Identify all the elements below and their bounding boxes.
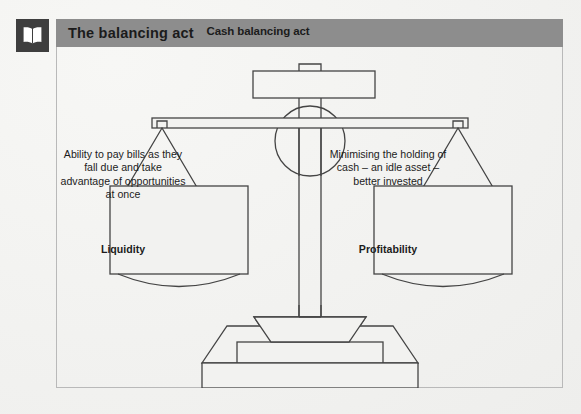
left-pan-caption: Liquidity [62, 243, 184, 256]
left-pan-text: Ability to pay bills as they fall due an… [60, 148, 186, 201]
pedestal-tier-top [254, 317, 366, 342]
cash-balancing-act-label: Cash balancing act [200, 24, 316, 38]
right-pan-text: Minimising the holding of cash – an idle… [323, 148, 453, 188]
balance-scale-diagram [56, 47, 563, 388]
page-title: The balancing act [56, 25, 194, 41]
top-notch [299, 64, 321, 71]
right-pan-caption: Profitability [324, 243, 452, 256]
open-book-icon [16, 19, 49, 52]
pedestal-slab [237, 342, 383, 363]
balance-beam [152, 118, 468, 128]
right-pan-box [374, 186, 512, 274]
right-pan-bowl [382, 274, 504, 287]
left-pan-bowl [118, 274, 240, 287]
pedestal-base-block [202, 363, 418, 388]
cash-label-box [253, 71, 375, 98]
